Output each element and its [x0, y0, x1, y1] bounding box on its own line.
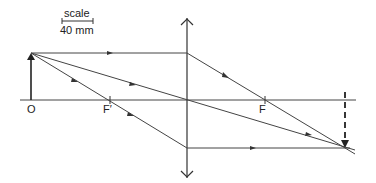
parallel-ray	[31, 51, 355, 154]
label-focal-front: F′	[103, 104, 112, 115]
object-arrow	[27, 53, 35, 100]
ray-diagram	[0, 0, 376, 183]
label-focal-back: F	[259, 104, 266, 115]
scale-label: scale	[64, 8, 90, 19]
central-ray	[31, 53, 355, 150]
scale-value: 40 mm	[60, 25, 94, 36]
label-object-point: O	[27, 104, 36, 115]
